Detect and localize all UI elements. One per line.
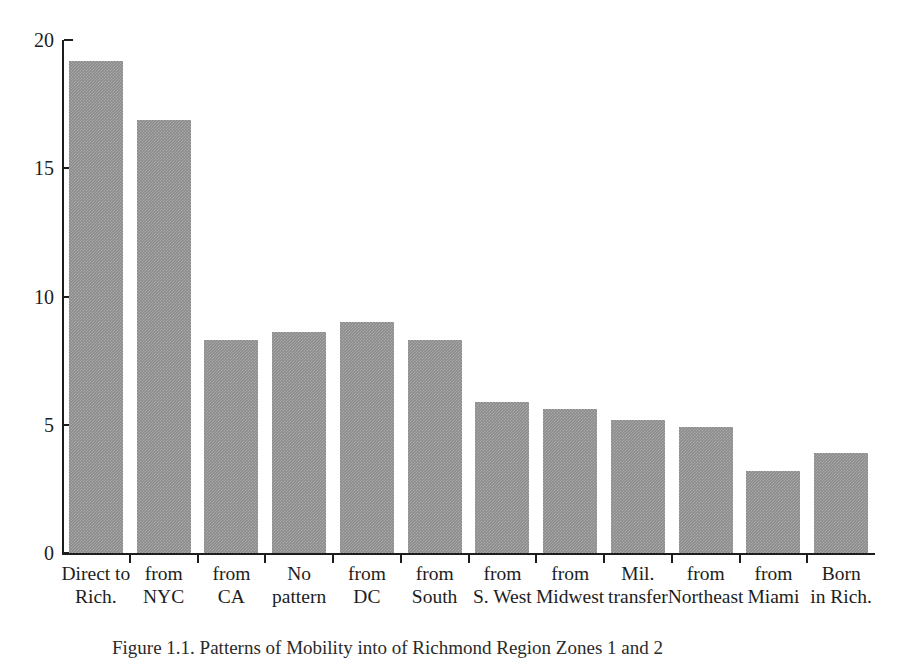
- bar: [746, 471, 800, 553]
- bar: [69, 61, 123, 553]
- x-axis-label: Bornin Rich.: [801, 562, 881, 608]
- x-axis-labels: Direct toRich.fromNYCfromCANopatternfrom…: [62, 562, 875, 612]
- bar: [543, 409, 597, 553]
- y-axis-tick-label: 20: [10, 30, 54, 50]
- bar: [408, 340, 462, 553]
- y-axis-tick-label: 10: [10, 287, 54, 307]
- x-axis-label-line1: Born: [801, 562, 881, 585]
- bar: [814, 453, 868, 553]
- bar: [611, 420, 665, 553]
- bar: [204, 340, 258, 553]
- x-axis-label-line2: in Rich.: [801, 585, 881, 608]
- bar: [272, 332, 326, 553]
- bar: [137, 120, 191, 553]
- bar: [679, 427, 733, 553]
- bar: [475, 402, 529, 553]
- y-axis-tick: [64, 39, 73, 41]
- plot-area: 05101520: [62, 40, 875, 553]
- y-axis-tick-label: 15: [10, 158, 54, 178]
- y-axis-tick-label: 5: [10, 415, 54, 435]
- y-axis-tick-label: 0: [10, 543, 54, 563]
- bar: [340, 322, 394, 553]
- figure-caption: Figure 1.1. Patterns of Mobility into of…: [112, 636, 663, 659]
